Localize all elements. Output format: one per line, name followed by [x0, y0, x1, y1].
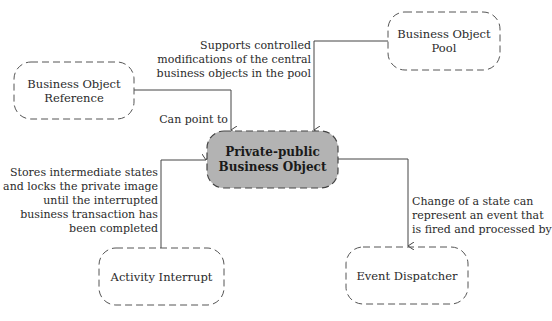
node-private-public-business-object: Private-public Business Object: [207, 131, 338, 188]
node-label-line: Business Object: [397, 27, 490, 41]
edge-label-dispatcher: Change of a state can represent an event…: [412, 195, 552, 237]
label-line: modifications of the central: [157, 53, 311, 67]
node-label-line: Pool: [432, 41, 457, 55]
label-line: business objects in the pool: [157, 67, 311, 81]
node-business-object-pool: Business Object Pool: [388, 12, 500, 70]
label-line: business transaction has: [3, 208, 158, 222]
node-label-line: Private-public: [225, 145, 320, 159]
edge-label-reference: Can point to: [159, 113, 228, 127]
edge-pool-to-center: [314, 41, 388, 130]
node-label-line: Activity Interrupt: [111, 270, 213, 284]
label-line: Can point to: [159, 113, 228, 127]
label-line: Stores intermediate states: [3, 166, 158, 180]
label-line: and locks the private image: [3, 180, 158, 194]
label-line: Change of a state can: [412, 195, 552, 209]
edge-label-interrupt: Stores intermediate states and locks the…: [3, 166, 158, 236]
node-business-object-reference: Business Object Reference: [14, 62, 134, 119]
edge-interrupt-to-center: [161, 160, 206, 248]
label-line: represent an event that: [412, 209, 552, 223]
node-label-line: Business Object: [219, 160, 327, 174]
node-label-line: Event Dispatcher: [356, 269, 457, 283]
label-line: until the interrupted: [3, 194, 158, 208]
label-line: been completed: [3, 222, 158, 236]
node-activity-interrupt: Activity Interrupt: [99, 248, 224, 305]
edge-label-pool: Supports controlled modifications of the…: [157, 39, 311, 81]
label-line: is fired and processed by: [412, 223, 552, 237]
edge-center-to-dispatcher: [338, 159, 408, 246]
label-line: Supports controlled: [157, 39, 311, 53]
node-event-dispatcher: Event Dispatcher: [346, 247, 468, 304]
node-label-line: Business Object: [27, 77, 120, 91]
node-label-line: Reference: [44, 91, 103, 105]
